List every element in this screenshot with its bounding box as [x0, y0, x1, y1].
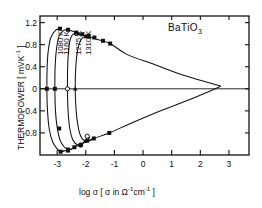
- data-point-marker: [108, 42, 112, 46]
- x-tick-label: 2: [190, 159, 210, 169]
- y-tick-label: 0.8: [6, 40, 37, 50]
- data-point-marker: [79, 143, 83, 147]
- data-point-marker: [65, 87, 69, 91]
- x-tick-label: -1: [104, 159, 124, 169]
- data-point-marker: [85, 134, 89, 138]
- data-point-marker: [107, 131, 111, 135]
- data-point-marker: [101, 39, 105, 43]
- chart-canvas: [0, 0, 262, 208]
- y-tick-label: -0.8: [6, 128, 37, 138]
- series-line-lower-envelope: [61, 87, 221, 152]
- data-point-marker: [53, 87, 57, 91]
- data-point-marker: [66, 149, 70, 153]
- y-tick-label: -0.4: [6, 106, 37, 116]
- chart-title: BaTiO3: [168, 22, 202, 36]
- data-point-marker: [45, 87, 49, 91]
- x-tick-label: 1: [162, 159, 182, 169]
- data-point-marker: [85, 139, 89, 143]
- y-tick-label: 1.2: [6, 18, 37, 28]
- y-tick-label: 0: [6, 84, 37, 94]
- x-tick-label: 3: [219, 159, 239, 169]
- curve-label-1310-K: 1310 K: [84, 30, 93, 54]
- x-tick-label: -2: [76, 159, 96, 169]
- y-tick-label: 0.4: [6, 62, 37, 72]
- curve-label-1160-K: 1160 K: [62, 31, 71, 55]
- data-point-marker: [92, 136, 96, 140]
- x-tick-label: -3: [47, 159, 67, 169]
- x-tick-label: 0: [133, 159, 153, 169]
- data-point-marker: [72, 145, 76, 149]
- chart-figure: BaTiO3 THERMOPOWER [ mVK-1 ] log σ [ σ i…: [0, 0, 262, 208]
- curve-label-1275-K: 1275 K: [74, 30, 83, 54]
- data-point-marker: [57, 127, 61, 131]
- x-axis-label: log σ [ σ in Ω-1cm-1 ]: [79, 185, 155, 197]
